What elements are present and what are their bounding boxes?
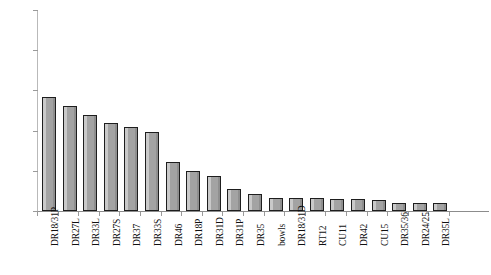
- x-axis-labels: DR18/31PDR27LDR33LDR27SDR37DR33SDR46DR18…: [37, 217, 489, 275]
- y-axis-tick-mark: [33, 171, 38, 172]
- x-axis-label: DR18/31P: [42, 217, 56, 231]
- bar-highlight: [393, 204, 396, 210]
- x-axis-label: DR35L: [433, 217, 447, 231]
- x-axis-label-text: DR35L: [439, 188, 453, 246]
- x-axis-label: DR42: [351, 217, 365, 231]
- bar-highlight: [249, 195, 252, 210]
- x-axis-label: DR18P: [186, 217, 200, 231]
- y-axis-tick-mark: [33, 50, 38, 51]
- x-axis-label-text: DR31D: [213, 188, 227, 246]
- x-axis-label-text: DR35: [254, 188, 268, 246]
- bar-highlight: [373, 201, 376, 210]
- bar-highlight: [208, 177, 211, 210]
- x-axis-label: DR33S: [145, 217, 159, 231]
- x-axis-label: DR31P: [227, 217, 241, 231]
- x-axis-label-text: DR33L: [89, 188, 103, 246]
- x-axis-label: CU15: [372, 217, 386, 231]
- x-axis-label-text: CU15: [378, 188, 392, 246]
- x-axis-label: bowls: [269, 217, 283, 231]
- x-axis-label-text: DR24/25: [419, 188, 433, 246]
- x-axis-label: RT12: [310, 217, 324, 231]
- bar-highlight: [228, 190, 231, 211]
- x-axis-label-text: DR27L: [69, 188, 83, 246]
- y-axis-tick-mark: [33, 90, 38, 91]
- x-axis-label-text: DR18P: [192, 188, 206, 246]
- x-axis-tick-mark: [37, 212, 38, 216]
- x-axis-label: DR35/36: [392, 217, 406, 231]
- x-axis-label-text: DR31P: [233, 188, 247, 246]
- x-axis-label: DR27S: [104, 217, 118, 231]
- x-axis-label-text: DR46: [172, 188, 186, 246]
- x-axis-label: DR24/25: [413, 217, 427, 231]
- x-axis-label-text: DR37: [130, 188, 144, 246]
- x-axis-label-text: DR42: [357, 188, 371, 246]
- x-axis-label: DR37: [124, 217, 138, 231]
- bar-highlight: [311, 199, 314, 210]
- x-axis-label-text: DR27S: [110, 188, 124, 246]
- bar-highlight: [105, 124, 108, 210]
- x-axis-label-text: bowls: [275, 188, 289, 246]
- bar-highlight: [43, 98, 46, 210]
- bar-highlight: [331, 200, 334, 210]
- plot-area: [37, 10, 489, 211]
- x-axis-label: DR46: [166, 217, 180, 231]
- x-axis-label: DR27L: [63, 217, 77, 231]
- y-axis-line: [37, 10, 38, 212]
- y-axis-tick-mark: [33, 131, 38, 132]
- bar-highlight: [64, 107, 67, 210]
- x-axis-label: DR18/31D: [289, 217, 303, 231]
- bar-highlight: [270, 199, 273, 210]
- bar-chart: 0%5%10%15%20%25% DR18/31PDR27LDR33LDR27S…: [0, 0, 491, 275]
- bar-highlight: [125, 128, 128, 210]
- x-axis-label-text: DR18/31P: [48, 188, 62, 246]
- bar-highlight: [352, 200, 355, 210]
- bar-highlight: [167, 163, 170, 210]
- x-axis-label-text: CU11: [336, 188, 350, 246]
- x-axis-label-text: RT12: [316, 188, 330, 246]
- x-axis-label: CU11: [330, 217, 344, 231]
- x-axis-label: DR31D: [207, 217, 221, 231]
- x-axis-label-text: DR33S: [151, 188, 165, 246]
- y-axis-tick-mark: [33, 10, 38, 11]
- bar-highlight: [146, 133, 149, 210]
- bar-highlight: [414, 204, 417, 210]
- x-axis-label: DR33L: [83, 217, 97, 231]
- bar-highlight: [434, 204, 437, 210]
- bar-highlight: [290, 199, 293, 210]
- bar-highlight: [84, 116, 87, 210]
- x-axis-label-text: DR35/36: [398, 188, 412, 246]
- x-axis-label: DR35: [248, 217, 262, 231]
- x-axis-label-text: DR18/31D: [295, 188, 309, 246]
- bar-highlight: [187, 172, 190, 210]
